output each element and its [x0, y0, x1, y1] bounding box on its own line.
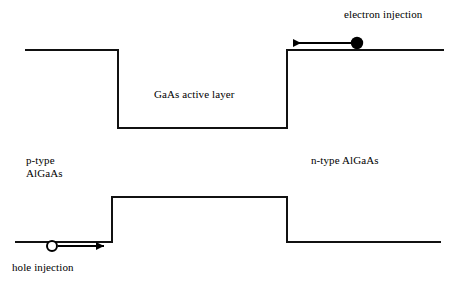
electron-injection-label: electron injection	[344, 8, 422, 21]
ptype-algaas-label-line1: p-type	[26, 154, 55, 166]
hole-injection-label: hole injection	[12, 261, 74, 274]
hole-particle-icon	[47, 241, 57, 251]
valence-band-profile	[16, 197, 440, 242]
gaas-active-layer-label: GaAs active layer	[154, 88, 235, 101]
band-diagram-svg	[0, 0, 452, 287]
electron-particle-icon	[351, 37, 363, 49]
band-diagram-canvas: electron injection GaAs active layer p-t…	[0, 0, 452, 287]
ptype-algaas-label-line2: AlGaAs	[26, 167, 63, 179]
ptype-algaas-label: p-typeAlGaAs	[26, 154, 63, 180]
ntype-algaas-label: n-type AlGaAs	[311, 154, 379, 167]
